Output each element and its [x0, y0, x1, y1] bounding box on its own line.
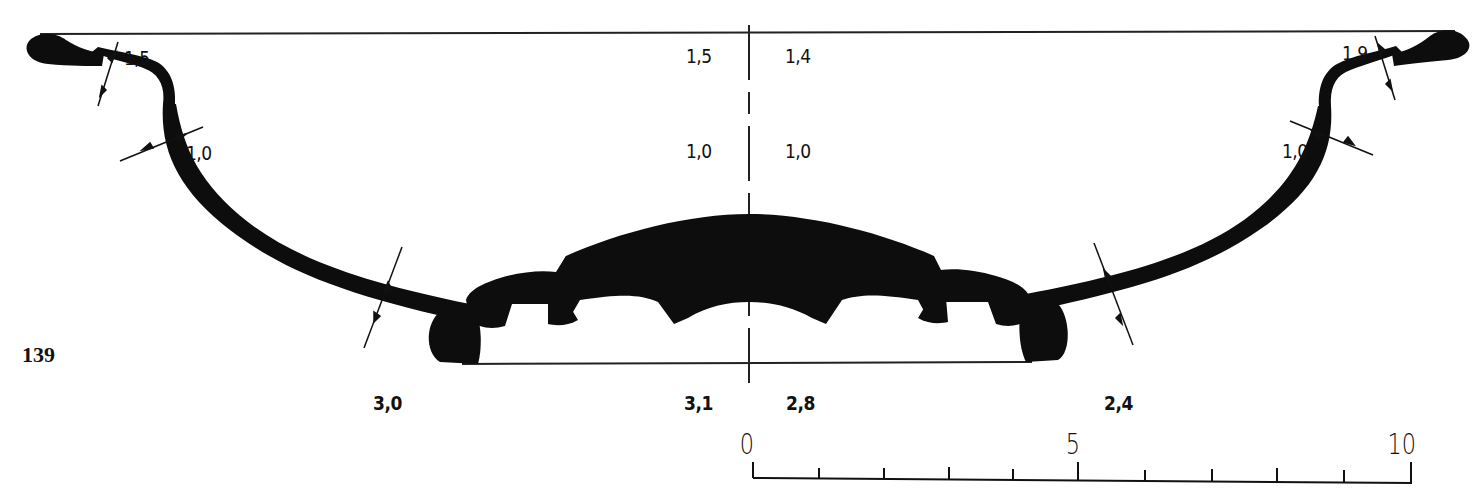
- measure-bottom-center-right: 2,8: [786, 392, 815, 414]
- scale-label-5: 5: [1066, 428, 1080, 461]
- rim-line: [40, 31, 1455, 34]
- measure-mid-center-left: 1,0: [686, 140, 712, 162]
- measure-mid-right-wall: 1,0: [1282, 140, 1308, 162]
- measure-bottom-right: 2,4: [1104, 392, 1133, 414]
- right-wall: [1026, 30, 1469, 312]
- measure-bottom-center-left: 3,1: [684, 392, 713, 414]
- measure-top-right-rim: 1,9: [1342, 42, 1368, 64]
- base-line: [462, 362, 1032, 364]
- scale-label-10: 10: [1388, 428, 1417, 461]
- measure-mid-center-right: 1,0: [785, 140, 811, 162]
- measure-top-center-left: 1,5: [686, 45, 712, 67]
- left-wall: [27, 34, 470, 322]
- vessel-profile-drawing: [0, 0, 1475, 503]
- scale-label-0: 0: [740, 428, 754, 461]
- measure-top-center-right: 1,4: [785, 45, 811, 67]
- measure-top-left-rim: 1,5: [124, 47, 150, 69]
- measure-mid-left-wall: 1,0: [186, 142, 212, 164]
- figure-number: 139: [22, 342, 55, 368]
- scale-bar: [753, 462, 1412, 483]
- measure-bottom-left: 3,0: [373, 392, 402, 414]
